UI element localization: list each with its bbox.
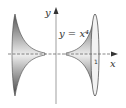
- equation-label: y = x⁴: [58, 28, 89, 39]
- y-axis-label: y: [44, 7, 51, 18]
- end-cap-ellipse: [91, 14, 99, 96]
- tick-label-1: 1: [94, 58, 98, 65]
- y-axis-arrow: [54, 7, 59, 14]
- surface-of-revolution-diagram: y x y = x⁴ 1: [0, 0, 126, 108]
- left-surface: [12, 14, 45, 96]
- x-axis-arrow: [111, 52, 118, 57]
- x-axis-label: x: [110, 58, 116, 69]
